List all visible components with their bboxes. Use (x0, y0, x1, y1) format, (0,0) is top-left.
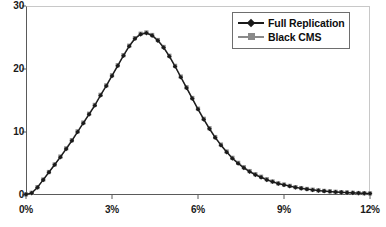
legend-item-black-cms: Black CMS (238, 30, 344, 44)
legend-label-black-cms: Black CMS (268, 31, 321, 43)
legend-item-full-replication: Full Replication (238, 16, 344, 30)
x-axis-tick-0pct: 0% (9, 205, 43, 215)
x-axis-tick-12pct: 12% (353, 205, 386, 215)
x-axis-tick-9pct: 9% (267, 205, 301, 215)
legend-label-full-replication: Full Replication (268, 17, 345, 29)
chart-container: 30 20 10 0 0% 3% 6% 9% 12% Full Replicat… (0, 0, 386, 227)
legend-marker-square-icon (238, 31, 264, 43)
x-axis-tick-3pct: 3% (95, 205, 129, 215)
chart-legend: Full Replication Black CMS (232, 12, 350, 49)
legend-marker-diamond-icon (238, 17, 264, 29)
x-axis-tick-6pct: 6% (181, 205, 215, 215)
